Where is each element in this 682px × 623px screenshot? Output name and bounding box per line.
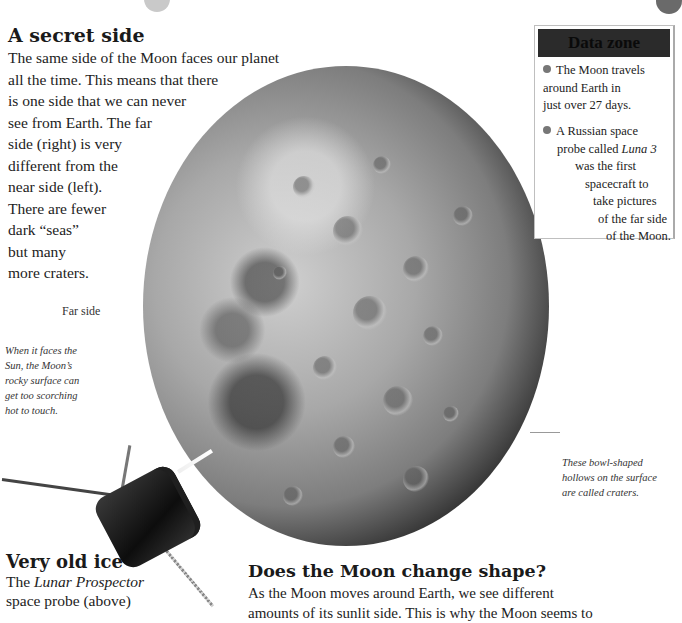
change-shape-body: As the Moon moves around Earth, we see d… bbox=[248, 583, 593, 623]
caption-line: hollows on the surface bbox=[562, 470, 657, 485]
body-line: The bbox=[6, 573, 34, 590]
fact-line: probe called bbox=[557, 142, 622, 156]
far-side-label: Far side bbox=[62, 304, 100, 319]
secret-side-line: see from Earth. The far bbox=[8, 112, 279, 134]
data-zone-title: Data zone bbox=[538, 29, 670, 57]
probe-boom-bottom bbox=[160, 544, 214, 607]
body-line: amounts of its sunlit side. This is why … bbox=[248, 603, 593, 623]
secret-side-line: The same side of the Moon faces our plan… bbox=[8, 47, 279, 69]
caption-line: Sun, the Moon’s bbox=[5, 358, 79, 373]
secret-side-line: is one side that we can never bbox=[8, 90, 279, 112]
body-line: space probe (above) bbox=[6, 591, 144, 610]
fact-line: spacecraft to bbox=[543, 176, 671, 194]
caption-line: get too scorching bbox=[5, 388, 79, 403]
very-old-ice-section: Very old ice The Lunar Prospector space … bbox=[6, 553, 144, 610]
caption-line: When it faces the bbox=[5, 343, 79, 358]
fact-line: of the far side bbox=[543, 211, 671, 229]
secret-side-line: dark “seas” bbox=[8, 219, 279, 241]
caption-line: are called craters. bbox=[562, 485, 657, 500]
fact-line: just over 27 days. bbox=[543, 97, 645, 115]
bullet-icon bbox=[543, 65, 551, 73]
data-zone-fact-1: The Moon travels around Earth in just ov… bbox=[543, 62, 645, 115]
craters-leader-line bbox=[530, 432, 560, 433]
caption-line: These bowl-shaped bbox=[562, 455, 657, 470]
secret-side-line: There are fewer bbox=[8, 198, 279, 220]
secret-side-line: more craters. bbox=[8, 262, 279, 284]
secret-side-line: side (right) is very bbox=[8, 133, 279, 155]
fact-line: of the Moon. bbox=[543, 228, 671, 246]
caption-line: hot to touch. bbox=[5, 403, 79, 418]
secret-side-body: The same side of the Moon faces our plan… bbox=[8, 47, 279, 284]
secret-side-heading: A secret side bbox=[8, 26, 279, 45]
data-zone-fact-2: A Russian space probe called Luna 3 was … bbox=[543, 123, 671, 246]
secret-side-line: different from the bbox=[8, 155, 279, 177]
fact-line: around Earth in bbox=[543, 80, 645, 98]
secret-side-section: A secret side The same side of the Moon … bbox=[8, 26, 279, 284]
fact-line: take pictures bbox=[543, 193, 671, 211]
lunar-prospector-name: Lunar Prospector bbox=[34, 573, 144, 590]
page-tab-dot-right bbox=[656, 0, 682, 14]
page-tab-dot-left bbox=[144, 0, 170, 12]
change-shape-section: Does the Moon change shape? As the Moon … bbox=[248, 563, 593, 623]
probe-boom-left bbox=[2, 478, 111, 496]
luna3-name: Luna 3 bbox=[622, 142, 657, 156]
change-shape-heading: Does the Moon change shape? bbox=[248, 563, 593, 581]
craters-caption: These bowl-shaped hollows on the surface… bbox=[562, 455, 657, 500]
secret-side-line: near side (left). bbox=[8, 176, 279, 198]
fact-line: The Moon travels bbox=[556, 63, 645, 77]
data-zone-box: Data zone The Moon travels around Earth … bbox=[534, 25, 675, 239]
fact-line: was the first bbox=[543, 158, 671, 176]
body-line: As the Moon moves around Earth, we see d… bbox=[248, 583, 593, 603]
secret-side-line: but many bbox=[8, 241, 279, 263]
secret-side-line: all the time. This means that there bbox=[8, 69, 279, 91]
scorching-caption: When it faces the Sun, the Moon’s rocky … bbox=[5, 343, 79, 418]
very-old-ice-body: The Lunar Prospector space probe (above) bbox=[6, 572, 144, 610]
bullet-icon bbox=[543, 126, 551, 134]
fact-line: A Russian space bbox=[556, 124, 638, 138]
caption-line: rocky surface can bbox=[5, 373, 79, 388]
very-old-ice-heading: Very old ice bbox=[6, 553, 144, 571]
